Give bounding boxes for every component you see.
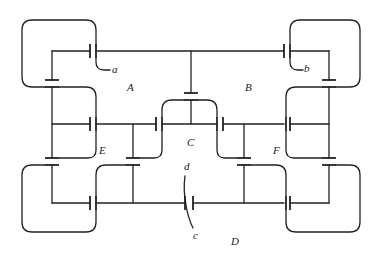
region-label-C: C — [187, 137, 194, 148]
region-label-D: D — [231, 236, 239, 247]
terminal-label-b: b — [304, 63, 310, 74]
region-label-A: A — [127, 82, 134, 93]
wires — [52, 51, 329, 203]
terminal-label-d: d — [184, 161, 190, 172]
region-label-E: E — [99, 145, 106, 156]
circuit-diagram: a b A B C E F d c D — [0, 0, 382, 262]
region-label-F: F — [273, 145, 280, 156]
circuit-drawing — [0, 0, 382, 262]
terminal-label-a: a — [112, 64, 118, 75]
region-label-B: B — [245, 82, 252, 93]
terminal-label-c: c — [193, 230, 198, 241]
